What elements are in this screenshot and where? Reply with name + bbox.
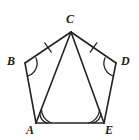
vertex-label-E: E <box>105 124 113 136</box>
angle-arc-A-inner <box>40 113 47 123</box>
tick-mark-segment-CD <box>90 43 97 52</box>
geometry-figure: C B D A E <box>0 0 139 140</box>
vertex-label-C: C <box>66 13 74 25</box>
diagonal-CE <box>71 32 104 123</box>
tick-mark-segment-BC <box>45 43 52 52</box>
vertex-label-B: B <box>7 55 15 67</box>
vertex-label-A: A <box>26 124 34 136</box>
vertex-label-D: D <box>121 55 130 67</box>
segment-DE <box>104 63 116 123</box>
